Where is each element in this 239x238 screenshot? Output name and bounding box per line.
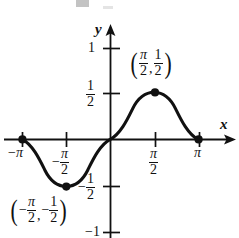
y-axis-label: y (95, 22, 102, 37)
annotation-min-point: ( − π 2 , − 1 2 ) (9, 196, 68, 226)
point-pi (195, 135, 203, 143)
fraction-pi-over-2: π 2 (149, 147, 158, 177)
y-tick-label-1: 1 (88, 41, 95, 55)
fraction-pi-over-2: π 2 (27, 195, 36, 225)
x-tick-label-half-pi: π 2 (149, 148, 158, 178)
fraction-one-half: 1 2 (49, 195, 58, 225)
graph-figure: y x 1 1 2 − 1 2 −1 −π − π 2 π 2 (0, 0, 239, 238)
x-axis-label: x (220, 117, 228, 132)
x-tick-label-neg-pi: −π (8, 146, 23, 160)
point-min (62, 183, 70, 191)
point-max (151, 88, 159, 96)
y-axis (106, 24, 116, 238)
fraction-one-half: 1 2 (154, 48, 163, 78)
fraction-one-half: 1 2 (86, 79, 95, 109)
fraction-pi-over-2: π 2 (60, 147, 69, 177)
fraction-one-half: 1 2 (86, 172, 95, 202)
y-tick-label-neg-half: − 1 2 (78, 173, 95, 203)
y-tick-label-neg-1: −1 (85, 225, 100, 238)
y-tick-label-half: 1 2 (86, 80, 95, 110)
y-axis-ticks (103, 49, 120, 233)
x-tick-label-pi: π (194, 146, 201, 160)
point-neg-pi (18, 135, 26, 143)
annotation-max-point: ( π 2 , 1 2 ) (129, 49, 173, 79)
x-tick-label-neg-half-pi: − π 2 (52, 148, 69, 178)
fraction-pi-over-2: π 2 (139, 48, 148, 78)
